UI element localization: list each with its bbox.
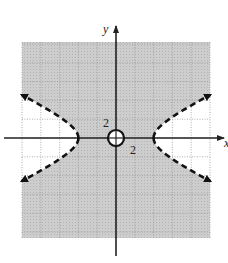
x-axis-label: x: [223, 136, 228, 150]
graph: y x 2 2: [0, 0, 228, 263]
y-tick-label: 2: [103, 116, 109, 130]
x-tick-label: 2: [130, 143, 136, 157]
y-axis-label: y: [102, 22, 109, 36]
